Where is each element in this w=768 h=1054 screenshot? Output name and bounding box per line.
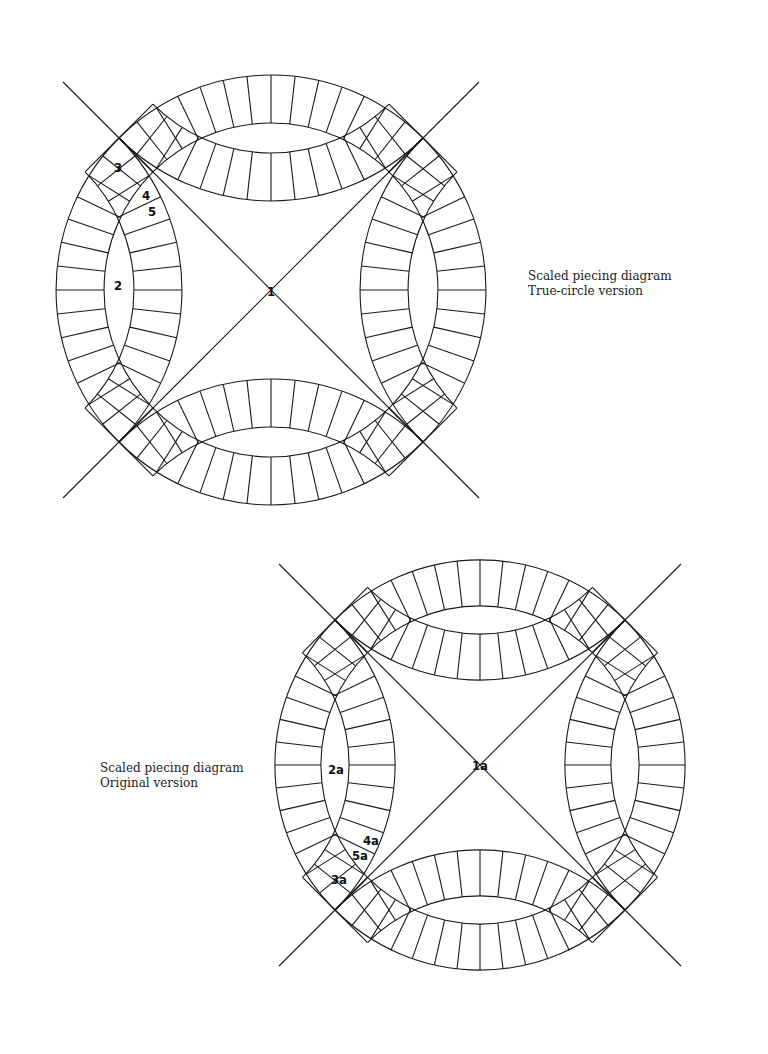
- original-caption: Scaled piecing diagram Original version: [100, 761, 244, 791]
- piece-label: 2a: [328, 762, 344, 777]
- piece-label: 5: [148, 204, 156, 219]
- piece-label: 4: [142, 188, 150, 203]
- piece-label: 3a: [331, 872, 347, 887]
- piece-label: 3: [114, 160, 122, 175]
- true-circle-caption: Scaled piecing diagram True-circle versi…: [528, 269, 672, 299]
- piecing-diagrams-canvas: 12345 1a2a3a4a5a: [0, 0, 768, 1054]
- piece-label: 1: [267, 284, 275, 299]
- true-circle-diagram: 12345: [56, 75, 486, 505]
- piece-label: 2: [114, 278, 122, 293]
- piece-label: 5a: [352, 848, 368, 863]
- true-circle-caption-line2: True-circle version: [528, 284, 672, 299]
- original-diagram: 1a2a3a4a5a: [275, 560, 685, 970]
- true-circle-caption-line1: Scaled piecing diagram: [528, 269, 672, 284]
- piece-label: 1a: [472, 758, 488, 773]
- original-caption-line1: Scaled piecing diagram: [100, 761, 244, 776]
- original-caption-line2: Original version: [100, 776, 244, 791]
- piece-label: 4a: [363, 833, 379, 848]
